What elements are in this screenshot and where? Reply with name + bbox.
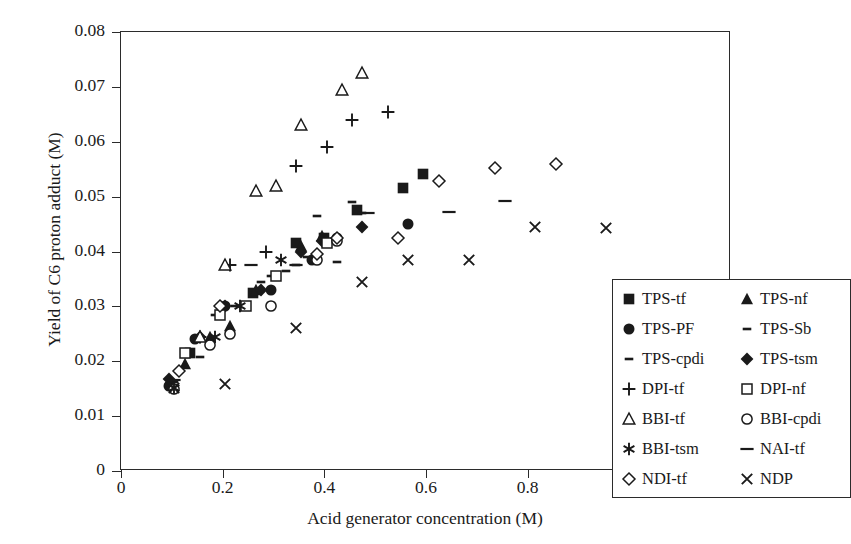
legend-item-tps-tsm[interactable]: TPS-tsm [731,349,849,369]
data-point-tps-pf [400,216,416,232]
data-point-tps-sb [288,257,304,273]
data-point-ndp [288,320,304,336]
data-point-tps-nf [314,228,330,244]
data-point-tps-sb [344,194,360,210]
data-point-tps-tsm [192,329,208,345]
data-point-ndp [217,376,233,392]
data-point-dpi-nf [177,345,193,361]
data-point-tps-tf [316,230,332,246]
legend-label: NAI-tf [760,439,805,459]
legend-item-bbi-tsm[interactable]: BBI-tsm [613,439,731,459]
data-point-ndp [400,252,416,268]
data-point-nai-tf [288,257,304,273]
legend-item-tps-pf[interactable]: TPS-PF [613,319,731,339]
data-point-tps-tsm [314,233,330,249]
data-point-tps-nf [293,238,309,254]
data-point-tps-cpdi [299,249,315,265]
data-point-bbi-cpdi [222,326,238,342]
data-point-dpi-tf [222,257,238,273]
y-tick [112,471,121,472]
data-point-tps-nf [222,318,238,334]
data-point-tps-cpdi [354,205,370,221]
data-point-nai-tf [243,257,259,273]
data-point-tps-tf [349,202,365,218]
legend-item-dpi-tf[interactable]: DPI-tf [613,379,731,399]
legend-label: DPI-nf [760,379,806,399]
data-point-bbi-tf [354,65,370,81]
legend-item-tps-sb[interactable]: TPS-Sb [731,319,849,339]
data-point-dpi-tf [344,112,360,128]
legend-item-bbi-cpdi[interactable]: BBI-cpdi [731,409,849,429]
data-point-tps-tf [415,166,431,182]
data-point-dpi-tf [380,104,396,120]
data-point-tps-tf [395,180,411,196]
y-tick [112,416,121,417]
data-point-tps-tsm [161,371,177,387]
data-point-tps-tf [182,345,198,361]
y-tick [112,361,121,362]
legend-item-dpi-nf[interactable]: DPI-nf [731,379,849,399]
legend-item-ndp[interactable]: NDP [731,469,849,489]
filled-circle-icon [620,321,637,338]
data-point-ndp [461,252,477,268]
data-point-ndi-tf [171,363,187,379]
data-point-ndi-tf [487,160,503,176]
open-circle-icon [738,411,755,428]
y-tick [112,32,121,33]
legend-label: NDI-tf [642,469,687,489]
filled-diamond-icon [738,351,755,368]
legend-item-tps-tf[interactable]: TPS-tf [613,289,731,309]
plus-icon [620,381,637,398]
dash-long-icon [738,441,755,458]
data-point-ndp [598,220,614,236]
y-tick-label: 0.01 [0,406,105,424]
y-tick [112,87,121,88]
data-point-ndp [527,219,543,235]
data-point-tps-tsm [217,298,233,314]
data-point-tps-sb [166,374,182,390]
data-point-dpi-tf [258,244,274,260]
data-point-tps-pf [187,331,203,347]
legend-item-nai-tf[interactable]: NAI-tf [731,439,849,459]
x-tick-label: 0 [76,477,166,498]
data-point-bbi-tf [248,183,264,199]
data-point-tps-tsm [293,244,309,260]
data-point-bbi-tf [217,257,233,273]
data-point-dpi-tf [192,329,208,345]
data-point-tps-sb [263,268,279,284]
x-tick-label: 0.8 [483,477,573,498]
legend-item-bbi-tf[interactable]: BBI-tf [613,409,731,429]
data-point-nai-tf [166,372,182,388]
data-point-bbi-tf [293,117,309,133]
data-point-ndp [354,274,370,290]
y-tick-label: 0.03 [0,296,105,314]
data-point-bbi-tsm [166,380,182,396]
x-tick-label: 0.4 [279,477,369,498]
data-point-dpi-nf [319,235,335,251]
data-point-dpi-nf [238,298,254,314]
legend-item-ndi-tf[interactable]: NDI-tf [613,469,731,489]
data-point-tps-tsm [253,282,269,298]
data-point-tps-pf [304,252,320,268]
x-axis-title: Acid generator concentration (M) [120,508,730,529]
y-tick [112,142,121,143]
data-point-ndi-tf [390,230,406,246]
x-tick-label: 0.2 [178,477,268,498]
legend-grid: TPS-tfTPS-nfTPS-PFTPS-SbTPS-cpdiTPS-tsmD… [613,284,850,494]
data-point-ndi-tf [548,156,564,172]
data-point-tps-sb [309,208,325,224]
legend-label: NDP [760,469,793,489]
data-point-ndi-tf [431,173,447,189]
data-point-ndp [166,380,182,396]
data-point-nai-tf [441,204,457,220]
y-tick-label: 0.02 [0,351,105,369]
data-point-bbi-tsm [207,329,223,345]
asterisk-icon [620,441,637,458]
data-point-nai-tf [360,205,376,221]
legend-label: TPS-Sb [760,319,811,339]
data-point-ndi-tf [309,246,325,262]
legend-item-tps-nf[interactable]: TPS-nf [731,289,849,309]
legend-item-tps-cpdi[interactable]: TPS-cpdi [613,349,731,369]
data-point-tps-sb [227,298,243,314]
data-point-tps-cpdi [329,254,345,270]
